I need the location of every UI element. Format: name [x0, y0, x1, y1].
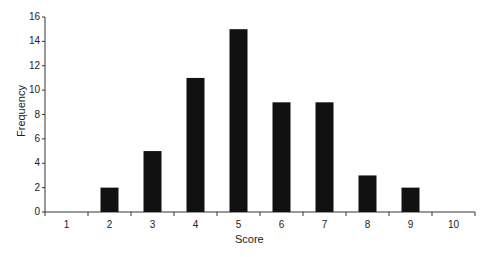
y-tick-label: 0: [20, 206, 40, 217]
bar-score-8: [359, 175, 377, 212]
bar-score-2: [101, 188, 119, 212]
bar-score-3: [144, 151, 162, 212]
y-tick-label: 6: [20, 133, 40, 144]
x-tick-label: 5: [229, 219, 249, 230]
histogram-chart: Frequency Score 0246810121416 1234567891…: [0, 0, 485, 257]
x-tick-label: 8: [358, 219, 378, 230]
y-tick-label: 2: [20, 182, 40, 193]
x-tick-label: 6: [272, 219, 292, 230]
x-tick-label: 4: [186, 219, 206, 230]
bar-score-7: [316, 102, 334, 212]
y-tick-label: 10: [20, 84, 40, 95]
bar-score-9: [402, 188, 420, 212]
x-tick-label: 7: [315, 219, 335, 230]
x-tick-label: 2: [100, 219, 120, 230]
y-tick-label: 16: [20, 11, 40, 22]
bar-score-4: [187, 78, 205, 212]
x-axis-label: Score: [235, 233, 264, 245]
bar-score-5: [230, 29, 248, 212]
x-tick-label: 3: [143, 219, 163, 230]
x-tick-label: 10: [444, 219, 464, 230]
y-tick-label: 8: [20, 109, 40, 120]
x-tick-label: 1: [57, 219, 77, 230]
y-tick-label: 4: [20, 157, 40, 168]
bar-score-6: [273, 102, 291, 212]
y-tick-label: 14: [20, 35, 40, 46]
x-tick-label: 9: [401, 219, 421, 230]
y-tick-label: 12: [20, 60, 40, 71]
